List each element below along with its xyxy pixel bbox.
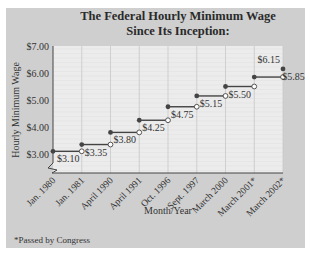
data-label: $3.80 xyxy=(114,134,137,145)
data-label: $5.85 xyxy=(282,71,305,82)
y-tick-label: $3.00 xyxy=(27,149,50,160)
data-label: $3.35 xyxy=(85,147,108,158)
open-endpoint xyxy=(166,118,171,123)
y-tick-label: $7.00 xyxy=(27,41,50,52)
data-label: $3.10 xyxy=(57,153,80,164)
open-endpoint xyxy=(194,104,199,109)
chart-title: The Federal Hourly Minimum Wage xyxy=(80,9,276,23)
x-axis-label: Month/Year xyxy=(144,205,193,216)
open-endpoint xyxy=(252,84,257,89)
open-endpoint xyxy=(79,149,84,154)
data-label: $5.15 xyxy=(200,98,223,109)
closed-endpoint xyxy=(137,118,142,123)
closed-endpoint xyxy=(79,142,84,147)
y-tick-labels: $7.00$6.00$5.00$4.00$3.00 xyxy=(27,41,50,160)
y-tick-label: $4.00 xyxy=(27,122,50,133)
open-endpoint xyxy=(137,130,142,135)
data-label: $6.15 xyxy=(258,54,281,65)
closed-endpoint xyxy=(252,75,257,80)
closed-endpoint xyxy=(108,130,113,135)
chart: The Federal Hourly Minimum Wage Since It… xyxy=(0,0,310,256)
footnote: *Passed by Congress xyxy=(14,235,90,245)
data-label: $5.50 xyxy=(229,89,252,100)
open-endpoint xyxy=(108,142,113,147)
closed-endpoint xyxy=(194,94,199,99)
y-tick-label: $5.00 xyxy=(27,95,50,106)
data-label: $4.25 xyxy=(142,122,165,133)
open-endpoint xyxy=(223,94,228,99)
closed-endpoint xyxy=(51,149,56,154)
x-tick-label: Jan. 1980 xyxy=(25,175,58,208)
y-axis-label: Hourly Minimum Wage xyxy=(10,62,21,158)
closed-endpoint xyxy=(166,104,171,109)
closed-endpoint xyxy=(223,84,228,89)
y-tick-label: $6.00 xyxy=(27,68,50,79)
chart-subtitle: Since Its Inception: xyxy=(126,24,229,38)
data-label: $4.75 xyxy=(171,109,194,120)
